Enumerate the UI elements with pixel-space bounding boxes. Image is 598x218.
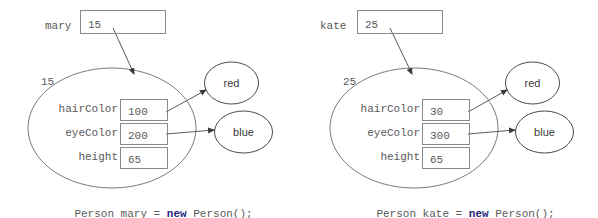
field-label-height-mary: height: [38, 151, 118, 163]
pointer-arrow-haircolor-to-red-kate: [468, 90, 507, 112]
caption-mary-keyword: new: [167, 208, 187, 218]
field-value-height-kate: 65: [430, 154, 443, 166]
value-label-red-mary: red: [205, 77, 258, 89]
pointer-arrow-haircolor-to-red-mary: [166, 90, 206, 112]
field-value-height-mary: 65: [128, 154, 141, 166]
value-label-blue-mary: blue: [215, 126, 272, 138]
field-box-eyecolor-kate[interactable]: 300: [422, 123, 470, 145]
pointer-arrow-mary-to-object: [113, 28, 134, 74]
object-address-mary: 15: [41, 76, 54, 88]
field-value-eyecolor-mary: 200: [128, 130, 148, 142]
field-box-haircolor-mary[interactable]: 100: [120, 99, 168, 121]
caption-mary-before: Person mary =: [74, 208, 166, 218]
diagram-canvas: mary 15 15 hairColor 100 eyeColor 200 he…: [0, 0, 598, 218]
value-label-red-kate: red: [506, 77, 559, 89]
caption-kate-after: Person();: [489, 208, 555, 218]
caption-kate-before: Person kate =: [376, 208, 468, 218]
pointer-arrow-kate-to-object: [390, 28, 412, 74]
variable-box-kate[interactable]: 25: [357, 10, 443, 34]
field-label-haircolor-kate: hairColor: [340, 103, 420, 115]
caption-kate: Person kate = new Person();: [350, 196, 555, 218]
caption-kate-keyword: new: [469, 208, 489, 218]
field-label-height-kate: height: [340, 151, 420, 163]
object-address-kate: 25: [343, 76, 356, 88]
field-label-eyecolor-mary: eyeColor: [38, 127, 118, 139]
pointer-arrow-eyecolor-to-blue-kate: [468, 130, 515, 134]
field-value-eyecolor-kate: 300: [430, 130, 450, 142]
variable-value-mary: 15: [88, 19, 101, 31]
variable-value-kate: 25: [365, 19, 378, 31]
field-value-haircolor-kate: 30: [430, 106, 443, 118]
caption-mary-after: Person();: [187, 208, 253, 218]
field-box-haircolor-kate[interactable]: 30: [422, 99, 470, 121]
field-label-haircolor-mary: hairColor: [38, 103, 118, 115]
field-box-eyecolor-mary[interactable]: 200: [120, 123, 168, 145]
variable-label-mary: mary: [45, 20, 71, 32]
variable-label-kate: kate: [320, 20, 346, 32]
pointer-arrow-eyecolor-to-blue-mary: [166, 130, 214, 134]
field-value-haircolor-mary: 100: [128, 106, 148, 118]
value-label-blue-kate: blue: [516, 126, 573, 138]
caption-mary: Person mary = new Person();: [48, 196, 253, 218]
field-box-height-mary[interactable]: 65: [120, 147, 168, 169]
variable-box-mary[interactable]: 15: [80, 10, 166, 34]
field-label-eyecolor-kate: eyeColor: [340, 127, 420, 139]
field-box-height-kate[interactable]: 65: [422, 147, 470, 169]
